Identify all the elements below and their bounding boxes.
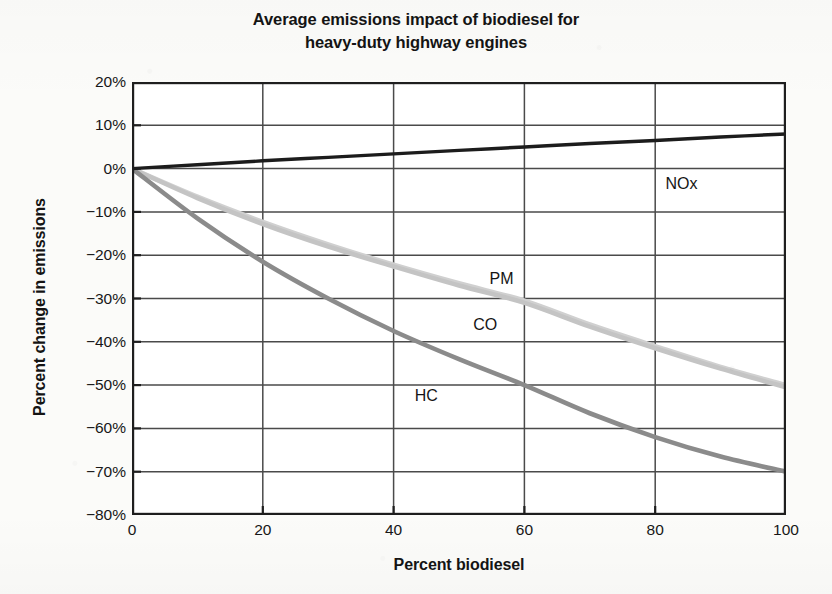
y-tick-label: 10%: [52, 116, 126, 134]
y-tick-label: −50%: [52, 376, 126, 394]
x-tick-label: 100: [773, 521, 799, 539]
y-tick-label: −40%: [52, 333, 126, 351]
x-tick-label: 0: [128, 521, 137, 539]
chart-title: Average emissions impact of biodiesel fo…: [0, 8, 832, 54]
y-tick-label: −30%: [52, 290, 126, 308]
y-tick-label: 20%: [52, 73, 126, 91]
series-label-pm: PM: [490, 270, 514, 288]
x-axis-tick-labels: 020406080100: [132, 521, 786, 545]
y-tick-label: −70%: [52, 463, 126, 481]
chart-title-line-1: Average emissions impact of biodiesel fo…: [0, 8, 832, 31]
x-axis-title: Percent biodiesel: [132, 556, 786, 574]
y-tick-label: 0%: [52, 160, 126, 178]
y-tick-label: −80%: [52, 506, 126, 524]
emissions-line-chart-figure: Average emissions impact of biodiesel fo…: [0, 0, 832, 594]
plot-svg: [132, 82, 786, 515]
series-label-co: CO: [473, 316, 497, 334]
series-label-hc: HC: [415, 387, 438, 405]
y-axis-tick-labels: 20%10%0%−10%−20%−30%−40%−50%−60%−70%−80%: [50, 82, 126, 515]
x-tick-label: 80: [647, 521, 664, 539]
plot-area: NOxPMCOHC: [132, 82, 786, 515]
x-tick-label: 40: [385, 521, 402, 539]
series-label-nox: NOx: [665, 175, 697, 193]
y-tick-label: −60%: [52, 419, 126, 437]
chart-title-line-2: heavy-duty highway engines: [0, 31, 832, 54]
y-tick-label: −20%: [52, 246, 126, 264]
y-axis-title: Percent change in emissions: [31, 97, 49, 517]
x-tick-label: 20: [254, 521, 271, 539]
y-tick-label: −10%: [52, 203, 126, 221]
x-tick-label: 60: [516, 521, 533, 539]
